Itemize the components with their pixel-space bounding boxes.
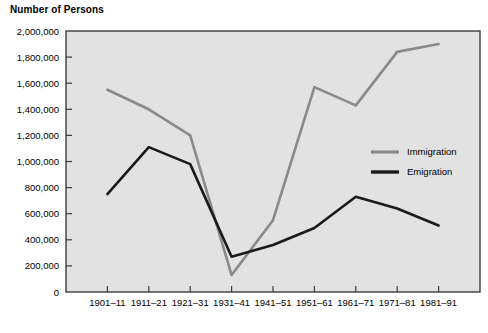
y-axis-tick-label: 600,000 (25, 208, 59, 219)
y-axis-tick-label: 1,600,000 (17, 78, 59, 89)
y-axis-tick-label: 200,000 (25, 260, 59, 271)
legend-label-immigration: Immigration (407, 146, 457, 157)
x-axis-tick-label: 1931–41 (213, 297, 250, 308)
chart-plot-svg: 0200,000400,000600,000800,0001,000,0001,… (0, 0, 488, 333)
x-axis-tick-label: 1911–21 (131, 297, 167, 308)
x-axis-tick-label: 1951–61 (296, 297, 333, 308)
x-axis-tick-label: 1961–71 (337, 297, 374, 308)
x-axis-tick-label: 1941–51 (255, 297, 292, 308)
x-axis-tick-label: 1981–91 (420, 297, 457, 308)
immigration-emigration-line-chart: Number of Persons 0200,000400,000600,000… (0, 0, 488, 333)
x-axis-tick-labels: 1901–111911–211921–311931–411941–511951–… (89, 297, 457, 308)
x-axis-tick-label: 1901–11 (89, 297, 125, 308)
legend-label-emigration: Emigration (407, 166, 452, 177)
y-axis-tick-label: 800,000 (25, 182, 59, 193)
y-axis-tick-label: 2,000,000 (17, 26, 59, 37)
x-axis-tick-label: 1921–31 (172, 297, 209, 308)
plot-area-background (66, 31, 480, 292)
x-axis-tick-label: 1971–81 (379, 297, 416, 308)
y-axis-tick-labels: 0200,000400,000600,000800,0001,000,0001,… (17, 26, 59, 298)
y-axis-tick-label: 400,000 (25, 234, 59, 245)
y-axis-tick-label: 1,400,000 (17, 104, 59, 115)
y-axis-tick-label: 1,800,000 (17, 52, 59, 63)
y-axis-tick-label: 0 (54, 287, 59, 298)
y-axis-tick-label: 1,000,000 (17, 156, 59, 167)
y-axis-tick-label: 1,200,000 (17, 130, 59, 141)
